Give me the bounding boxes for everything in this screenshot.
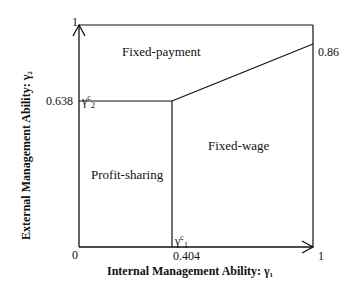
gamma2-critical-symbol: γc2 (82, 94, 95, 110)
y-max-label: 1 (72, 16, 78, 28)
x-threshold-value: 0.404 (173, 250, 200, 262)
x-max-label: 1 (318, 250, 324, 262)
y-threshold-value: 0.638 (46, 95, 73, 107)
region-fixed-payment: Fixed-payment (122, 45, 201, 58)
gamma1-critical-symbol: γc1 (175, 234, 188, 250)
right-edge-value: 0.86 (318, 46, 339, 58)
region-fixed-wage: Fixed-wage (208, 139, 269, 152)
x-axis-title: Internal Management Ability: γ₁ (107, 265, 273, 277)
origin-label: 0 (72, 249, 78, 261)
region-profit-sharing: Profit-sharing (91, 168, 163, 181)
y-axis-title: External Management Ability: γ₂ (20, 71, 32, 240)
